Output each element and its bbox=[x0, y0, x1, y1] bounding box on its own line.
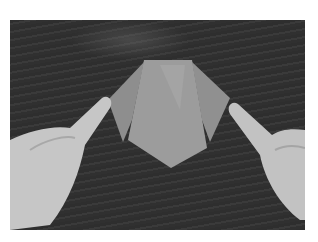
right-hand bbox=[229, 103, 305, 220]
origami-illustration bbox=[10, 20, 305, 230]
origami-photo bbox=[10, 20, 305, 230]
left-hand bbox=[10, 97, 111, 230]
